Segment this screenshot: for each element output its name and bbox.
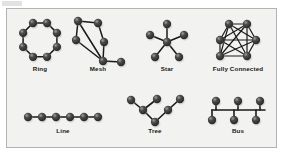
line-nodes <box>24 113 104 124</box>
ring-edges <box>23 23 57 57</box>
figure-frame: Ring <box>6 8 277 148</box>
tree-nodes <box>127 95 186 129</box>
topology-star: Star <box>146 20 190 72</box>
topology-label-ring: Ring <box>33 65 47 72</box>
bus-nodes <box>208 97 266 127</box>
topology-label-bus: Bus <box>232 127 245 134</box>
topology-label-line: Line <box>56 127 70 134</box>
topology-tree: Tree <box>127 95 186 134</box>
star-nodes <box>146 20 190 64</box>
topology-label-star: Star <box>161 65 174 72</box>
topology-bus: Bus <box>208 97 266 134</box>
mesh-nodes <box>72 17 127 69</box>
topology-label-mesh: Mesh <box>90 65 106 72</box>
topology-line: Line <box>24 113 104 134</box>
topology-ring: Ring <box>19 19 63 72</box>
topology-diagram-canvas: Ring <box>7 9 278 149</box>
topology-fully-connected: Fully Connected <box>213 20 263 72</box>
topology-label-tree: Tree <box>148 127 162 134</box>
topology-mesh: Mesh <box>72 17 127 72</box>
network-topology-figure: Ring <box>0 0 283 156</box>
scan-artifact <box>2 1 22 6</box>
topology-label-fully-connected: Fully Connected <box>213 65 263 72</box>
